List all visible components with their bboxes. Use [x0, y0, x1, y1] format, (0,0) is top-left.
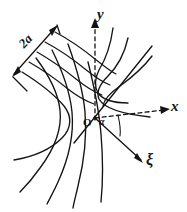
diagram-svg — [0, 0, 187, 212]
angle-label-alpha: α — [99, 117, 105, 127]
dimension-tick-start — [13, 77, 27, 91]
dimension-tick-end — [57, 25, 60, 34]
origin-label: O — [83, 117, 92, 128]
dimension-arrowhead-end — [49, 25, 58, 36]
eta-axis — [74, 46, 152, 143]
x-axis-arrowhead — [160, 106, 170, 114]
origin-point — [93, 116, 97, 120]
streamline-curve-8 — [14, 72, 70, 160]
streamline-curve-2 — [98, 38, 150, 117]
y-axis-label: y — [97, 7, 104, 22]
x-axis-label: x — [171, 99, 179, 114]
angle-marker-alpha — [118, 115, 120, 136]
x-axis — [95, 106, 170, 118]
xi-axis-label: ξ — [146, 152, 153, 168]
angle-arc — [118, 115, 120, 136]
figure-canvas: y x ξ O α 2a — [0, 0, 187, 212]
eta-axis-line — [74, 46, 152, 143]
